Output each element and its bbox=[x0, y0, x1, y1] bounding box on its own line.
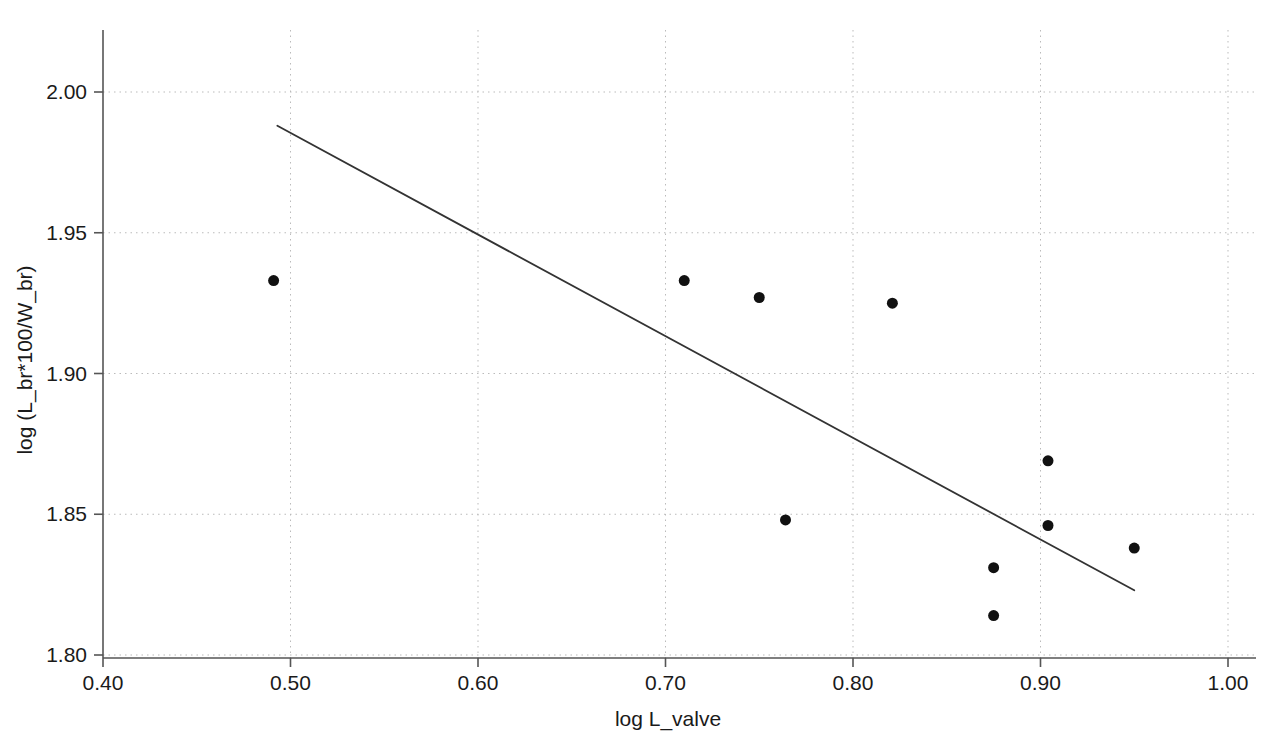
data-point bbox=[1043, 520, 1054, 531]
scatter-plot: 0.400.500.600.700.800.901.00 1.801.851.9… bbox=[0, 0, 1273, 745]
x-tick-label: 0.60 bbox=[458, 671, 499, 694]
x-tick-label: 0.90 bbox=[1020, 671, 1061, 694]
data-point bbox=[1129, 543, 1140, 554]
trend-line-group bbox=[277, 126, 1134, 590]
x-tick-label: 0.50 bbox=[270, 671, 311, 694]
y-tick-label: 1.90 bbox=[46, 362, 87, 385]
x-tick-label: 1.00 bbox=[1208, 671, 1249, 694]
data-point bbox=[268, 275, 279, 286]
data-point bbox=[1043, 455, 1054, 466]
data-point bbox=[988, 562, 999, 573]
x-tick-label: 0.80 bbox=[833, 671, 874, 694]
y-tick-label: 2.00 bbox=[46, 80, 87, 103]
y-axis-title: log (L_br*100/W_br) bbox=[13, 265, 37, 454]
data-point-group bbox=[268, 275, 1140, 621]
chart-figure: 0.400.500.600.700.800.901.00 1.801.851.9… bbox=[0, 0, 1273, 745]
y-tick-label: 1.80 bbox=[46, 643, 87, 666]
data-point bbox=[988, 610, 999, 621]
data-point bbox=[887, 298, 898, 309]
data-point bbox=[754, 292, 765, 303]
x-tick-group: 0.400.500.600.700.800.901.00 bbox=[83, 658, 1249, 694]
trend-line bbox=[277, 126, 1134, 590]
x-tick-label: 0.40 bbox=[83, 671, 124, 694]
x-axis-title: log L_valve bbox=[615, 707, 721, 731]
data-point bbox=[679, 275, 690, 286]
y-tick-label: 1.95 bbox=[46, 221, 87, 244]
y-tick-label: 1.85 bbox=[46, 502, 87, 525]
data-point bbox=[780, 514, 791, 525]
x-tick-label: 0.70 bbox=[645, 671, 686, 694]
y-tick-group: 1.801.851.901.952.00 bbox=[46, 80, 103, 666]
